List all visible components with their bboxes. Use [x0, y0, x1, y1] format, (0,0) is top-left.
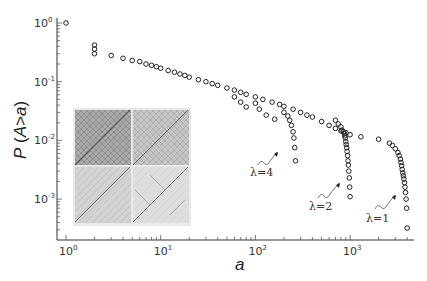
y-axis-label: P (A>a)	[11, 101, 30, 159]
annotation-lambda-2: λ=2	[309, 200, 332, 213]
data-point	[204, 79, 209, 84]
data-point	[232, 95, 237, 100]
data-point	[282, 110, 287, 115]
data-point	[149, 63, 154, 68]
data-point	[238, 100, 243, 105]
data-point	[232, 88, 237, 93]
data-point	[238, 90, 243, 95]
data-point	[403, 185, 408, 190]
y-tick-label: 10-2	[34, 133, 55, 147]
data-point	[187, 75, 192, 80]
data-point	[348, 194, 353, 199]
data-point	[272, 117, 277, 122]
data-point	[376, 137, 381, 142]
data-point	[244, 92, 249, 97]
data-point	[261, 97, 266, 102]
data-point	[359, 135, 364, 140]
data-point	[109, 53, 114, 58]
data-point	[305, 113, 310, 118]
inset-panel-4	[133, 167, 189, 223]
svg-text:P (A>a): P (A>a)	[11, 101, 30, 159]
data-point	[403, 190, 408, 195]
data-point	[257, 107, 262, 112]
data-point	[287, 118, 292, 123]
data-point	[348, 132, 353, 137]
data-point	[298, 110, 303, 115]
data-point	[215, 83, 220, 88]
data-point	[404, 206, 409, 211]
y-ticks: 10010-110-210-3	[34, 16, 62, 230]
data-point	[244, 105, 249, 110]
x-tick-label: 103	[343, 244, 361, 258]
data-point	[130, 58, 135, 63]
data-point	[404, 197, 409, 202]
data-point	[253, 95, 258, 100]
data-point	[253, 101, 258, 106]
annotation-lambda-4: λ=4	[250, 166, 273, 179]
x-axis-label: a	[235, 255, 244, 274]
arrow-lambda-2	[318, 183, 339, 198]
data-point	[319, 119, 324, 124]
data-point	[405, 226, 410, 231]
data-point	[92, 51, 97, 56]
data-point	[310, 115, 315, 120]
data-point	[347, 176, 352, 181]
data-point	[327, 123, 332, 128]
x-tick-label: 102	[248, 244, 266, 258]
data-point	[196, 77, 201, 82]
x-tick-label: 101	[154, 244, 172, 258]
data-point	[172, 70, 177, 75]
inset-panel-3	[75, 167, 131, 223]
data-point	[144, 62, 149, 67]
data-point	[292, 145, 297, 150]
data-point	[264, 113, 269, 118]
series-λ=4	[232, 95, 298, 164]
data-point	[270, 100, 275, 105]
annotation-lambda-1: λ=1	[366, 212, 389, 225]
data-point	[347, 169, 352, 174]
x-tick-label: 100	[59, 244, 77, 258]
data-point	[137, 59, 142, 64]
data-point	[282, 104, 287, 109]
data-point	[178, 72, 183, 77]
y-tick-label: 10-3	[34, 192, 55, 206]
data-point	[64, 21, 69, 26]
inset-image	[73, 108, 191, 226]
chart: 100101102103 10010-110-210-3	[0, 0, 427, 281]
y-tick-label: 100	[34, 16, 52, 30]
data-point	[292, 136, 297, 141]
data-point	[166, 68, 171, 73]
data-point	[121, 56, 126, 61]
y-tick-label: 10-1	[34, 75, 55, 89]
data-point	[289, 123, 294, 128]
data-point	[225, 86, 230, 91]
annotations: λ=4 λ=2 λ=1	[250, 152, 396, 225]
data-point	[291, 107, 296, 112]
data-point	[158, 66, 163, 71]
data-point	[210, 81, 215, 86]
x-ticks: 100101102103	[59, 235, 407, 258]
data-point	[293, 159, 298, 164]
arrow-lambda-1	[375, 195, 395, 209]
data-point	[336, 122, 341, 127]
data-point	[347, 185, 352, 190]
data-point	[291, 130, 296, 135]
data-point	[333, 126, 338, 131]
